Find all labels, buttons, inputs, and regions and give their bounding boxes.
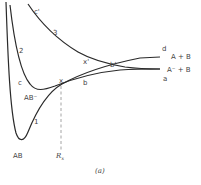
label-a: a [163, 75, 167, 83]
curve-3 [28, 4, 160, 69]
label-curve-3: 3 [53, 29, 57, 37]
curve-2 [10, 5, 160, 90]
curve-1 [6, 2, 160, 140]
label-c: c [18, 79, 22, 87]
label-curve-1: 1 [34, 118, 38, 126]
label-x: x [59, 77, 63, 85]
label-ab: AB [13, 152, 23, 160]
label-b: b [83, 79, 88, 87]
label-curve-2: 2 [19, 47, 23, 55]
label-c-prime: c' [34, 8, 40, 16]
potential-energy-diagram: c' 3 2 c AB⁻ 1 AB x x' b b' d a A + B A⁻… [0, 0, 201, 185]
label-ab-minus: AB⁻ [24, 94, 38, 102]
label-a-minus-plus-b: A⁻ + B [167, 66, 191, 74]
figure-caption: (a) [95, 167, 105, 175]
rx-subscript: x [61, 155, 64, 161]
label-d: d [162, 45, 166, 53]
label-b-prime: b' [110, 61, 116, 69]
label-a-plus-b: A + B [171, 53, 191, 61]
label-rx: Rx [55, 152, 64, 161]
label-x-prime: x' [83, 58, 89, 66]
